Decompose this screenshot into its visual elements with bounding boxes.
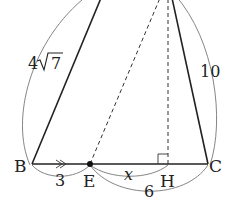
length-ab: 4 7 [28,53,63,73]
label-b: B [14,156,27,176]
point-e-dot [87,161,93,167]
geometry-diagram: B E H C 3 x 6 10 4 7 [0,0,240,208]
length-eh: x [124,165,133,184]
length-be: 3 [55,171,65,190]
side-ac [172,0,208,164]
label-e: E [83,171,95,191]
length-ac: 10 [200,62,220,81]
triangle-figure: B E H C 3 x 6 10 4 7 [0,0,240,208]
label-c: C [209,156,222,176]
length-ec: 6 [144,182,154,201]
segment-ae-dashed [90,0,160,164]
length-ab-rad: 7 [51,54,61,73]
right-angle-marker [158,154,168,164]
arc-ac [175,0,217,165]
side-ab [32,0,101,164]
length-ab-coef: 4 [28,54,38,73]
label-h: H [160,171,175,191]
arc-ab [22,0,88,165]
